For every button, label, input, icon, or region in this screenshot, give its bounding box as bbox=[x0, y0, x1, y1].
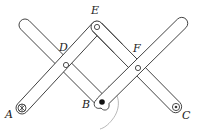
label-c: C bbox=[182, 109, 191, 122]
pivot-d bbox=[63, 62, 68, 67]
fixed-pivot-a-icon bbox=[18, 104, 26, 112]
label-a: A bbox=[4, 108, 13, 121]
label-f: F bbox=[132, 42, 141, 55]
label-b: B bbox=[81, 98, 90, 111]
pivot-e bbox=[94, 24, 99, 29]
label-d: D bbox=[58, 41, 68, 54]
label-e: E bbox=[90, 4, 99, 17]
pivot-f bbox=[135, 65, 140, 70]
pantograph-diagram: A B C D E F bbox=[0, 0, 199, 130]
pivot-c-icon bbox=[172, 103, 179, 110]
